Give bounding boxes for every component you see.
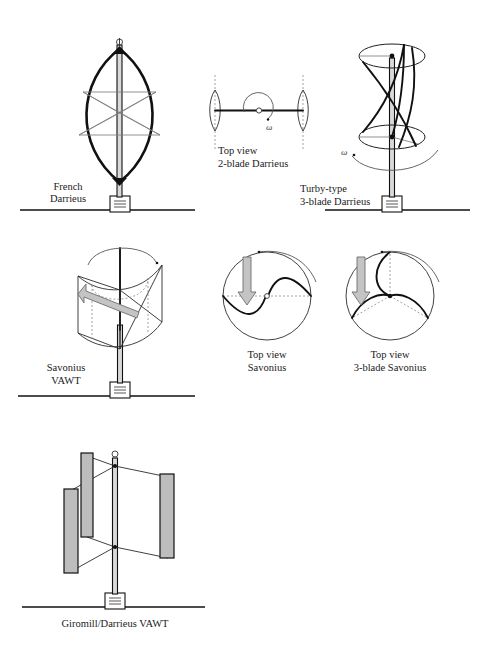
vawt-figure: French Darrieus ω Top view 2-blade Darri… [0, 0, 485, 646]
hub [265, 294, 270, 299]
panel-french-darrieus: French Darrieus [20, 38, 195, 212]
blade-1 [81, 453, 93, 537]
panel-label-line1: Savonius [47, 362, 86, 373]
top-hub [390, 54, 395, 59]
panel-label: Giromill/Darrieus VAWT [62, 618, 170, 629]
blade-3 [160, 474, 174, 558]
mast [113, 458, 118, 594]
panel-label-line1: French [53, 181, 83, 192]
hub-bottom [113, 545, 117, 549]
panel-turby-type-3-blade-darrieus: ω Turby-type 3-blade Darrieus [300, 44, 470, 212]
radial-guide-3 [390, 296, 428, 318]
blade-upper [268, 278, 311, 296]
panel-label-line2: Darrieus [50, 193, 86, 204]
rotation-arrow-head [353, 154, 356, 157]
strut-diagonal [79, 113, 120, 135]
panel-top-view-2-blade-darrieus: ω Top view 2-blade Darrieus [210, 75, 309, 169]
wind-arrow [352, 257, 370, 305]
strut-lower-left [87, 537, 115, 547]
wind-arrow [238, 257, 256, 305]
hub [388, 294, 392, 298]
blade-2 [64, 489, 78, 573]
panel-savonius-vawt: Savonius VAWT [18, 248, 195, 398]
panel-label-line1: Top view [247, 349, 287, 360]
panel-top-view-3-blade-savonius: Top view 3-blade Savonius [346, 251, 439, 373]
rotation-arrow-head [156, 262, 159, 265]
panel-label-line2: VAWT [51, 375, 81, 386]
rotation-arrow-head [381, 251, 384, 254]
vawt-diagram-canvas: French Darrieus ω Top view 2-blade Darri… [0, 0, 485, 646]
omega-symbol: ω [341, 147, 347, 157]
panel-label-line2: 2-blade Darrieus [218, 158, 288, 169]
omega-symbol: ω [266, 122, 272, 132]
mast [117, 45, 122, 197]
panel-label-line2: Savonius [248, 362, 287, 373]
strut-diagonal [120, 113, 161, 135]
panel-giromill-darrieus-vawt: Giromill/Darrieus VAWT [22, 451, 205, 629]
rotation-arrow-head [267, 118, 269, 120]
panel-label-line2: 3-blade Darrieus [300, 196, 370, 207]
blade-1 [377, 252, 391, 296]
finial-icon [112, 451, 118, 457]
panel-top-view-savonius: Top view Savonius [223, 251, 316, 373]
panel-label-line1: Top view [218, 145, 258, 156]
hub [256, 108, 261, 113]
panel-label-line2: 3-blade Savonius [354, 362, 427, 373]
rotation-arc [243, 93, 273, 119]
rotation-arc [88, 248, 156, 265]
panel-label-line1: Top view [370, 349, 410, 360]
rotation-arrow-head [258, 251, 261, 254]
panel-label-line1: Turby-type [300, 183, 347, 194]
hub-top [113, 464, 117, 468]
